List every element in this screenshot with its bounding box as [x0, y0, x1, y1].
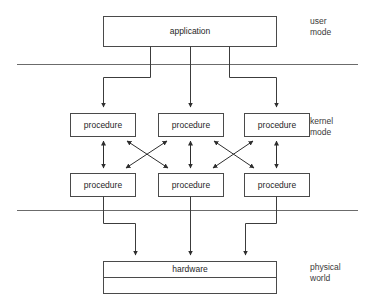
zone-label-user-line1: user — [310, 16, 327, 26]
procedure-box-r2c2-label: procedure — [172, 180, 211, 190]
procedure-box-r2c1-label: procedure — [84, 180, 123, 190]
biarrow-diagonal-r1c2-to-r2c3 — [214, 141, 254, 168]
zone-label-user-line2: mode — [310, 27, 332, 37]
procedure-box-r1c2-label: procedure — [172, 120, 211, 130]
zone-label-physical-line1: physical — [310, 262, 341, 272]
hardware-box-lower[interactable] — [104, 278, 277, 294]
zone-label-physical-line2: world — [309, 273, 331, 283]
connector-app-to-procedure-1 — [104, 47, 151, 108]
biarrow-diagonal-r1c1-to-r2c2 — [127, 141, 168, 168]
connector-procedure-3-to-hardware — [246, 197, 277, 256]
zone-label-kernel-line1: kernel — [310, 116, 333, 126]
diagram-canvas: application procedure procedure procedur… — [0, 0, 371, 304]
hardware-box-label: hardware — [172, 264, 208, 274]
procedure-box-r2c3-label: procedure — [258, 180, 297, 190]
connector-procedure-1-to-hardware — [104, 197, 136, 256]
biarrow-diagonal-r1c3-to-r2c2 — [213, 141, 253, 168]
biarrow-diagonal-r1c2-to-r2c1 — [126, 141, 167, 168]
procedure-box-r1c1-label: procedure — [84, 120, 123, 130]
application-box-label: application — [170, 26, 211, 36]
connector-app-to-procedure-3 — [230, 47, 277, 108]
procedure-box-r1c3-label: procedure — [258, 120, 297, 130]
zone-label-kernel-line2: mode — [310, 127, 332, 137]
architecture-diagram: application procedure procedure procedur… — [0, 0, 371, 304]
